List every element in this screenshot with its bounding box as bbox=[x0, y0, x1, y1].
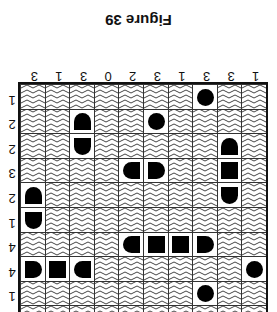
ship-top-icon bbox=[25, 212, 42, 229]
water-cell bbox=[241, 232, 266, 257]
ship-right-icon bbox=[123, 162, 140, 179]
ship-left-icon bbox=[148, 162, 165, 179]
water-cell bbox=[45, 133, 70, 158]
water-cell bbox=[192, 256, 217, 281]
water-cell bbox=[192, 158, 217, 183]
water-cell bbox=[168, 133, 193, 158]
water-cell bbox=[241, 158, 266, 183]
water-cell bbox=[168, 281, 193, 306]
ship-cell bbox=[20, 207, 45, 232]
water-cell bbox=[143, 256, 168, 281]
water-cell bbox=[168, 109, 193, 134]
water-cell bbox=[94, 109, 119, 134]
water-cell bbox=[143, 182, 168, 207]
water-cell bbox=[45, 158, 70, 183]
ship-top-icon bbox=[221, 187, 238, 204]
water-cell bbox=[45, 109, 70, 134]
water-cell bbox=[20, 133, 45, 158]
water-cell bbox=[217, 84, 242, 109]
water-cell bbox=[118, 207, 143, 232]
ship-right-icon bbox=[123, 236, 140, 253]
water-cell bbox=[69, 84, 94, 109]
water-cell bbox=[217, 109, 242, 134]
ship-cell bbox=[69, 133, 94, 158]
ship-cell bbox=[241, 256, 266, 281]
water-cell bbox=[241, 84, 266, 109]
ship-left-icon bbox=[25, 261, 42, 278]
water-cell bbox=[20, 109, 45, 134]
water-cell bbox=[143, 281, 168, 306]
water-cell bbox=[143, 84, 168, 109]
water-cell bbox=[192, 305, 217, 312]
water-cell bbox=[69, 281, 94, 306]
ship-cell bbox=[143, 109, 168, 134]
water-cell bbox=[168, 84, 193, 109]
ship-cell bbox=[192, 84, 217, 109]
ship-middle-icon bbox=[49, 261, 66, 278]
ship-bottom-icon bbox=[25, 187, 42, 204]
water-cell bbox=[143, 133, 168, 158]
ship-bottom-icon bbox=[74, 113, 91, 130]
water-cell bbox=[94, 158, 119, 183]
ship-left-icon bbox=[197, 236, 214, 253]
water-cell bbox=[143, 207, 168, 232]
water-cell bbox=[192, 133, 217, 158]
ship-cell bbox=[192, 281, 217, 306]
ship-top-icon bbox=[74, 138, 91, 155]
water-cell bbox=[192, 109, 217, 134]
ship-sub-icon bbox=[197, 285, 214, 302]
water-cell bbox=[69, 182, 94, 207]
water-cell bbox=[217, 232, 242, 257]
ship-cell bbox=[143, 158, 168, 183]
water-cell bbox=[217, 207, 242, 232]
figure-rotated: Figure 39 1331320313 0144123221 bbox=[0, 0, 277, 312]
water-cell bbox=[118, 281, 143, 306]
ship-cell bbox=[20, 182, 45, 207]
water-cell bbox=[45, 305, 70, 312]
water-cell bbox=[241, 109, 266, 134]
water-cell bbox=[143, 305, 168, 312]
ship-middle-icon bbox=[172, 236, 189, 253]
ship-cell bbox=[69, 256, 94, 281]
water-cell bbox=[241, 281, 266, 306]
ship-middle-icon bbox=[148, 236, 165, 253]
water-cell bbox=[217, 305, 242, 312]
water-cell bbox=[20, 84, 45, 109]
water-cell bbox=[94, 207, 119, 232]
water-cell bbox=[69, 207, 94, 232]
water-cell bbox=[94, 133, 119, 158]
water-cell bbox=[192, 207, 217, 232]
ship-cell bbox=[45, 256, 70, 281]
ship-cell bbox=[69, 109, 94, 134]
water-cell bbox=[94, 281, 119, 306]
water-cell bbox=[118, 256, 143, 281]
water-cell bbox=[118, 84, 143, 109]
water-cell bbox=[241, 133, 266, 158]
water-cell bbox=[168, 256, 193, 281]
ship-sub-icon bbox=[148, 113, 165, 130]
water-cell bbox=[168, 182, 193, 207]
ship-right-icon bbox=[74, 261, 91, 278]
water-cell bbox=[20, 305, 45, 312]
water-cell bbox=[69, 232, 94, 257]
water-cell bbox=[94, 182, 119, 207]
water-cell bbox=[20, 158, 45, 183]
water-cell bbox=[118, 305, 143, 312]
water-cell bbox=[94, 305, 119, 312]
water-cell bbox=[241, 182, 266, 207]
water-cell bbox=[168, 305, 193, 312]
ship-cell bbox=[118, 158, 143, 183]
water-cell bbox=[217, 256, 242, 281]
water-cell bbox=[94, 232, 119, 257]
ship-middle-icon bbox=[221, 162, 238, 179]
water-cell bbox=[20, 281, 45, 306]
water-cell bbox=[217, 281, 242, 306]
ship-cell bbox=[192, 232, 217, 257]
water-cell bbox=[241, 305, 266, 312]
ship-cell bbox=[217, 133, 242, 158]
ship-cell bbox=[118, 232, 143, 257]
water-cell bbox=[168, 158, 193, 183]
water-cell bbox=[118, 182, 143, 207]
water-cell bbox=[94, 84, 119, 109]
ship-sub-icon bbox=[246, 261, 263, 278]
